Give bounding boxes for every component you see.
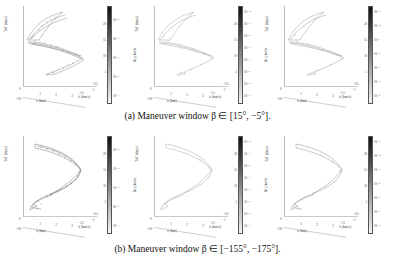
colorbar-tick: 10⁻⁷ [244, 176, 250, 180]
subfigure-a: 5 10 15 20 1 2 3 −1.5 −1 −0.5 0 ×10⁴ ToF… [0, 0, 395, 134]
colorbar-tick: 10⁻⁶ [244, 58, 250, 62]
x-exponent: ×10⁴ [147, 97, 153, 101]
colorbar-tick: 10⁻⁵ [244, 70, 250, 74]
x-exponent: ×10⁴ [147, 227, 153, 231]
colorbar-gradient [238, 136, 243, 234]
colorbar-tick: 10⁻⁸ [244, 164, 250, 168]
colorbar-tick: 10⁻⁹ [244, 22, 250, 26]
scatter-cloud-crescent [284, 136, 358, 218]
colorbar-tick: 10⁻⁹ [244, 152, 250, 156]
y-axis-label: ToF (days) [265, 16, 269, 32]
scatter-cloud-crescent [154, 136, 228, 218]
y-axis-label: ToF (days) [135, 146, 139, 162]
origin-tick: 0 [280, 87, 282, 91]
colorbar-tick: 10⁻⁶ [374, 210, 380, 214]
x-axis-label: x (km) [36, 229, 46, 233]
colorbar-tick: 10⁻⁸ [244, 34, 250, 38]
colorbar-tick: 10⁻¹¹ [374, 140, 381, 144]
colorbar-tick: 10⁻³ [113, 186, 119, 190]
panel-a-1: 5 10 15 20 1 2 3 −1.5 −1 −0.5 0 ×10⁴ ToF… [2, 2, 133, 108]
colorbar-tick: 10⁻⁷ [374, 196, 380, 200]
colorbar-gradient [368, 136, 373, 234]
colorbar-tick: 10⁻³ [244, 224, 250, 228]
colorbar-tick: 10⁻⁶ [244, 188, 250, 192]
y-axis-label: ToF (days) [4, 16, 8, 32]
colorbar-tick: 10⁻² [113, 75, 119, 79]
depth-tick: −1 [86, 218, 100, 222]
scatter-cloud-arrowhead [23, 6, 97, 88]
colorbar-tick: 10⁻¹⁰ [244, 10, 251, 14]
colorbar-tick: 10⁻⁵ [374, 224, 380, 228]
colorbar-tick: 10⁻⁴ [244, 82, 250, 86]
colorbar-b-1: 10⁻⁵ 10⁻⁴ 10⁻³ 10⁻² 10⁻¹ Δv₁ (km/s) [104, 136, 133, 234]
depth-tick: −1 [347, 88, 361, 92]
x-tick: 2 [181, 93, 193, 97]
colorbar-tick: 10⁻⁸ [374, 182, 380, 186]
x-tick: 2 [311, 93, 323, 97]
colorbar-a-3: 10⁻¹¹ 10⁻¹⁰ 10⁻⁹ 10⁻⁸ 10⁻⁷ 10⁻⁶ 10⁻⁵ ToF… [365, 6, 394, 104]
scatter-cloud-arrowhead [154, 6, 228, 88]
colorbar-tick: 10⁻¹⁰ [244, 140, 251, 144]
x-exponent: ×10⁴ [277, 97, 283, 101]
panel-b-2: 5 10 15 20 1 2 3 −1.5 −1 −0.5 0 ×10⁴ ToF… [133, 132, 264, 238]
colorbar-tick: 10⁻¹⁰ [374, 154, 381, 158]
depth-axis-label: ẋ (km/s) [339, 225, 351, 229]
x-tick: 2 [181, 223, 193, 227]
plot-area-a-2: 5 10 15 20 1 2 3 −1.5 −1 −0.5 0 ×10⁴ ToF… [133, 2, 237, 108]
x-tick: 1 [34, 92, 46, 96]
x-tick: 2 [50, 223, 62, 227]
x-tick: 1 [165, 92, 177, 96]
colorbar-tick: 10⁻⁸ [374, 52, 380, 56]
subfigure-a-panels: 5 10 15 20 1 2 3 −1.5 −1 −0.5 0 ×10⁴ ToF… [0, 0, 395, 108]
depth-tick: −1 [347, 218, 361, 222]
depth-tick: −1 [217, 218, 231, 222]
x-tick: 1 [295, 92, 307, 96]
y-axis-label: ToF (days) [265, 146, 269, 162]
x-tick: 2 [50, 93, 62, 97]
plot-area-a-1: 5 10 15 20 1 2 3 −1.5 −1 −0.5 0 ×10⁴ ToF… [2, 2, 106, 108]
colorbar-gradient [368, 6, 373, 104]
colorbar-b-3: 10⁻¹¹ 10⁻¹⁰ 10⁻⁹ 10⁻⁸ 10⁻⁷ 10⁻⁶ 10⁻⁵ ToF… [365, 136, 394, 234]
x-axis-label: x (km) [167, 229, 177, 233]
depth-axis-label: ẋ (km/s) [209, 225, 221, 229]
x-axis-label: x (km) [167, 99, 177, 103]
colorbar-tick: 10⁻⁹ [374, 38, 380, 42]
colorbar-tick: 10⁻³ [244, 94, 250, 98]
plot-area-b-2: 5 10 15 20 1 2 3 −1.5 −1 −0.5 0 ×10⁴ ToF… [133, 132, 237, 238]
colorbar-tick: 10⁻⁴ [113, 37, 119, 41]
depth-axis-label: ẋ (km/s) [209, 95, 221, 99]
colorbar-gradient [107, 136, 112, 234]
depth-axis-label: ẋ (km/s) [78, 225, 90, 229]
panel-b-1: 5 10 15 20 1 2 3 −1.5 −1 −0.5 0 ×10⁴ ToF… [2, 132, 133, 238]
panel-b-3: 5 10 15 20 1 2 3 −1.5 −1 −0.5 0 ×10⁴ ToF… [263, 132, 394, 238]
x-tick: 2 [311, 223, 323, 227]
subfigure-b-caption: (b) Maneuver window β ∈ [−155°, −175°]. [0, 243, 395, 254]
x-axis-label: x (km) [297, 229, 307, 233]
colorbar-tick: 10⁻⁷ [244, 46, 250, 50]
x-axis-label: x (km) [36, 99, 46, 103]
origin-tick: 0 [150, 217, 152, 221]
colorbar-tick: 10⁻⁴ [113, 167, 119, 171]
plot-area-b-3: 5 10 15 20 1 2 3 −1.5 −1 −0.5 0 ×10⁴ ToF… [263, 132, 367, 238]
y-axis-label: ToF (days) [135, 16, 139, 32]
subfigure-b-panels: 5 10 15 20 1 2 3 −1.5 −1 −0.5 0 ×10⁴ ToF… [0, 130, 395, 238]
scatter-cloud-arrowhead [284, 6, 358, 88]
depth-axis-label: ẋ (km/s) [339, 95, 351, 99]
depth-axis-label: ẋ (km/s) [78, 95, 90, 99]
panel-a-3: 5 10 15 20 1 2 3 −1.5 −1 −0.5 0 ×10⁴ ToF… [263, 2, 394, 108]
colorbar-tick: 10⁻¹ [113, 224, 119, 228]
origin-tick: 0 [150, 87, 152, 91]
colorbar-a-2: 10⁻¹⁰ 10⁻⁹ 10⁻⁸ 10⁻⁷ 10⁻⁶ 10⁻⁵ 10⁻⁴ 10⁻³… [235, 6, 264, 104]
x-exponent: ×10⁴ [16, 227, 22, 231]
y-axis-label: ToF (days) [4, 146, 8, 162]
colorbar-a-1: 10⁻⁵ 10⁻⁴ 10⁻³ 10⁻² 10⁻¹ Δv₁ (km/s) [104, 6, 133, 104]
colorbar-tick: 10⁻⁷ [374, 66, 380, 70]
colorbar-gradient [238, 6, 243, 104]
colorbar-tick: 10⁻² [113, 205, 119, 209]
x-tick: 1 [295, 222, 307, 226]
x-exponent: ×10⁴ [16, 97, 22, 101]
colorbar-tick: 10⁻⁶ [374, 80, 380, 84]
panel-a-2: 5 10 15 20 1 2 3 −1.5 −1 −0.5 0 ×10⁴ ToF… [133, 2, 264, 108]
depth-tick: −1 [217, 88, 231, 92]
subfigure-b: 5 10 15 20 1 2 3 −1.5 −1 −0.5 0 ×10⁴ ToF… [0, 130, 395, 267]
